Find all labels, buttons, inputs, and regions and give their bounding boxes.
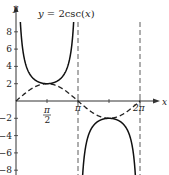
x-tick-pi: π: [74, 103, 82, 113]
csc-branch-2: [82, 118, 135, 175]
y-axis-label: y: [12, 3, 19, 13]
y-tick-label: −8: [0, 165, 12, 175]
y-tick-label: 8: [6, 27, 12, 37]
y-tick-label: −6: [0, 148, 12, 158]
chart-title: y = 2csc(x): [37, 8, 95, 19]
csc-branch-1: [20, 22, 73, 84]
chart-container: y x y = 2csc(x) 8642−2−4−6−8 π 2 π 2π: [0, 0, 169, 175]
x-tick-2pi: 2π: [132, 103, 146, 113]
x-axis-label: x: [162, 97, 167, 107]
csc-graph: y x y = 2csc(x) 8642−2−4−6−8 π 2 π 2π: [0, 0, 169, 175]
y-ticks: 8642−2−4−6−8: [0, 27, 18, 175]
x-axis-arrow-icon: [153, 99, 160, 104]
y-tick-label: 6: [6, 44, 12, 54]
y-tick-label: −4: [0, 131, 12, 141]
x-tick-pi-half-den: 2: [45, 115, 51, 125]
y-tick-label: 4: [6, 61, 12, 71]
y-tick-label: 2: [6, 79, 12, 89]
y-tick-label: −2: [0, 113, 12, 123]
x-tick-pi-half-num: π: [43, 105, 51, 115]
